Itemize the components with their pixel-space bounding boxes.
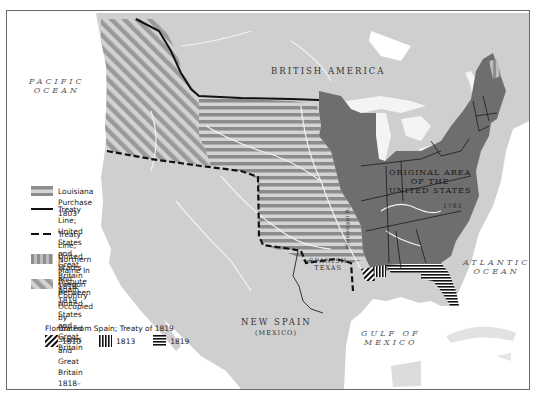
legend-florida-1810: 1810 — [62, 337, 81, 346]
label-new-spain: NEW SPAIN — [241, 318, 312, 328]
vertical-hatch-icon — [99, 335, 112, 347]
northern-maine-swatch-icon — [31, 254, 53, 264]
dashed-line-icon — [31, 229, 53, 239]
solid-line-icon — [31, 204, 53, 214]
legend-florida-1819: 1819 — [170, 337, 189, 346]
legend-florida-title: Florida From Spain; Treaty of 1819 — [45, 324, 215, 333]
oregon-country-swatch-icon — [31, 279, 53, 289]
legend-florida-1813: 1813 — [116, 337, 135, 346]
label-spanish-texas: SPANISH TEXAS — [309, 258, 347, 273]
label-mississippi-river: Mississippi R. — [345, 207, 351, 249]
diagonal-hatch-icon — [45, 335, 58, 347]
louisiana-purchase-swatch-icon — [31, 186, 53, 196]
map-frame: PACIFIC OCEAN BRITISH AMERICA ORIGINAL A… — [6, 10, 530, 390]
label-atlantic-ocean: ATLANTIC OCEAN — [463, 258, 530, 276]
label-gulf-of-mexico: GULF OF MEXICO — [361, 329, 421, 347]
label-original-area-year: 1783 — [443, 203, 462, 210]
label-new-spain-mexico: (MEXICO) — [255, 330, 297, 337]
label-british-america: BRITISH AMERICA — [271, 67, 385, 77]
legend-florida: Florida From Spain; Treaty of 1819 1810 … — [45, 324, 215, 347]
horizontal-hatch-icon — [153, 335, 166, 347]
label-original-area: ORIGINAL AREA OF THE UNITED STATES — [389, 168, 471, 196]
legend-florida-years: 1810 1813 1819 — [45, 335, 215, 347]
label-pacific-ocean: PACIFIC OCEAN — [29, 77, 85, 95]
